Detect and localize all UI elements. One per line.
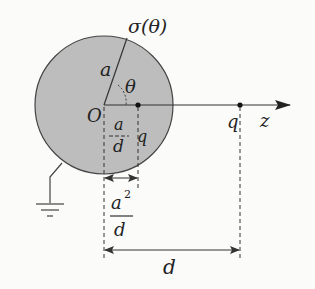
label-distance: d — [163, 255, 176, 279]
image-charge-dot — [135, 102, 140, 107]
label-radius: a — [100, 58, 111, 80]
label-image-charge: q — [137, 127, 147, 146]
label-axis-z: z — [259, 110, 270, 131]
sphere-image-charge-diagram: σ(θ) a θ O a d q q z a 2 d d — [0, 0, 315, 289]
label-image-offset-sup: 2 — [124, 188, 131, 201]
label-origin: O — [87, 105, 102, 126]
label-image-distance-den: d — [113, 136, 124, 156]
label-image-offset-den: d — [114, 219, 126, 240]
ground-icon — [36, 204, 64, 216]
diagram-canvas: σ(θ) a θ O a d q q z a 2 d d — [0, 0, 315, 289]
label-image-offset-num: a — [111, 192, 122, 213]
label-image-distance-num: a — [114, 115, 124, 134]
ground-wire — [50, 163, 62, 203]
real-charge-dot — [237, 102, 242, 107]
label-surface-charge: σ(θ) — [128, 15, 167, 37]
label-angle: θ — [125, 76, 136, 97]
label-real-charge: q — [227, 111, 239, 132]
